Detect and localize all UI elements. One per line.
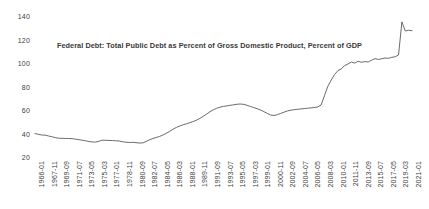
x-axis-tick-label: 2021-01 <box>415 161 422 187</box>
x-axis-tick-label: 2008-03 <box>327 161 334 187</box>
x-axis-tick-label: 2013-09 <box>365 161 372 187</box>
x-axis-tick-label: 2017-05 <box>390 161 397 187</box>
x-axis-tick-label: 1977-01 <box>113 161 120 187</box>
x-axis-tick-label: 2004-07 <box>302 161 309 187</box>
y-axis-tick-label: 120 <box>18 36 30 43</box>
x-axis-tick-label: 1982-07 <box>151 161 158 187</box>
x-axis-tick-label: 2002-09 <box>289 161 296 187</box>
chart-title: Federal Debt: Total Public Debt as Perce… <box>57 41 362 50</box>
y-axis-tick-label: 140 <box>18 13 30 20</box>
x-axis-tick-label: 1989-11 <box>201 161 208 187</box>
x-axis-tick-label: 1993-07 <box>227 161 234 187</box>
x-axis-tick-label: 1969-09 <box>63 161 70 187</box>
x-axis-tick-label: 1997-03 <box>252 161 259 187</box>
x-axis-tick-label: 1975-03 <box>101 161 108 187</box>
x-axis-tick-label: 1986-03 <box>176 161 183 187</box>
y-axis-tick-label: 80 <box>22 83 30 90</box>
x-axis-tick-label: 2006-05 <box>314 161 321 187</box>
x-axis-tick-label: 2015-07 <box>377 161 384 187</box>
y-axis: 20406080100120140 <box>0 0 35 209</box>
x-axis-tick-label: 1967-11 <box>51 161 58 187</box>
x-axis-tick-label: 2000-11 <box>277 161 284 187</box>
x-axis-tick-label: 1999-01 <box>264 161 271 187</box>
series-federal-debt-line <box>35 16 412 157</box>
x-axis: 1966-011967-111969-091971-071973-051975-… <box>35 157 412 209</box>
y-axis-tick-label: 60 <box>22 107 30 114</box>
x-axis-tick-label: 1988-01 <box>189 161 196 187</box>
x-axis-tick-label: 1980-09 <box>139 161 146 187</box>
x-axis-tick-label: 2010-01 <box>340 161 347 187</box>
x-axis-tick-label: 2019-03 <box>402 161 409 187</box>
x-axis-tick-label: 1978-11 <box>126 161 133 187</box>
x-axis-tick-label: 2011-11 <box>352 161 359 186</box>
y-axis-tick-label: 100 <box>18 60 30 67</box>
plot-area <box>35 16 412 157</box>
x-axis-tick-label: 1991-09 <box>214 161 221 187</box>
y-axis-tick-label: 20 <box>22 154 30 161</box>
x-axis-tick-label: 1973-05 <box>88 161 95 187</box>
x-axis-tick-label: 1984-05 <box>164 161 171 187</box>
x-axis-tick-label: 1971-07 <box>76 161 83 187</box>
x-axis-tick-label: 1966-01 <box>38 161 45 187</box>
y-axis-tick-label: 40 <box>22 130 30 137</box>
x-axis-tick-label: 1995-05 <box>239 161 246 187</box>
chart-container: 20406080100120140 Federal Debt: Total Pu… <box>0 0 429 209</box>
